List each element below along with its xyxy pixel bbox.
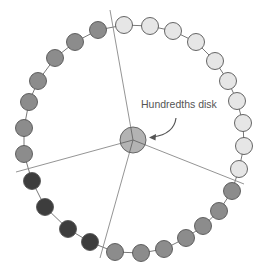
bead-light xyxy=(207,53,224,70)
bead-light xyxy=(116,17,133,34)
bead-dark xyxy=(37,199,54,216)
bead-light xyxy=(231,161,248,178)
arrowhead-icon xyxy=(149,134,156,141)
hundredths-disk-label: Hundredths disk xyxy=(141,98,217,110)
bead-light xyxy=(229,93,246,110)
bead-light xyxy=(188,34,205,51)
divider-line xyxy=(16,140,133,172)
bead-dark xyxy=(60,221,77,238)
bead-dark xyxy=(24,173,41,190)
divider-line xyxy=(100,140,133,258)
bead-mid xyxy=(16,146,33,163)
bead-light xyxy=(220,73,237,90)
bead-dark xyxy=(82,234,99,251)
bead-light xyxy=(235,115,252,132)
bead-mid xyxy=(107,244,124,261)
bead-mid xyxy=(47,50,64,67)
bead-light xyxy=(142,18,159,35)
bead-light xyxy=(165,23,182,40)
bead-mid xyxy=(156,241,173,258)
hundredths-disk xyxy=(120,127,146,153)
bead-mid xyxy=(16,120,33,137)
bead-mid xyxy=(224,183,241,200)
bead-mid xyxy=(195,218,212,235)
bead-mid xyxy=(90,22,107,39)
hundredths-disk-diagram xyxy=(0,0,265,273)
bead-mid xyxy=(133,245,150,262)
bead-mid xyxy=(67,34,84,51)
bead-mid xyxy=(178,230,195,247)
divider-line xyxy=(133,140,244,184)
bead-mid xyxy=(30,73,47,90)
bead-mid xyxy=(211,203,228,220)
bead-mid xyxy=(21,94,38,111)
bead-light xyxy=(236,138,253,155)
arrow-icon xyxy=(153,118,176,137)
